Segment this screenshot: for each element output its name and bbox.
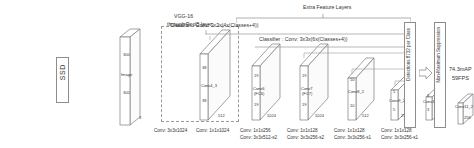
block-conv10_2-height: 3 xyxy=(427,94,429,98)
conv-caption-conv11_2-b: Conv: 3x3x256-s1 xyxy=(381,135,418,141)
block-conv8_2-depth: 512 xyxy=(362,114,369,118)
block-conv10_2-width: 3 xyxy=(427,108,429,112)
result-map-label: 74.3mAP xyxy=(449,67,472,73)
conv-caption-conv11_2-a: Conv: 1x1x128 xyxy=(381,128,412,134)
extra-feature-layers-bracket xyxy=(236,12,411,24)
ssd-architecture-figure: SSD 300 Image 300 3 VGG-16 through Pool5… xyxy=(0,0,474,148)
arrow-to-nms-icon xyxy=(419,66,433,80)
conv-caption-conv10_2-a: Conv: 1x1x128 xyxy=(334,128,365,134)
input-name-label: Image xyxy=(121,73,132,77)
input-width-label: 300 xyxy=(123,91,130,95)
conv-caption-conv7: Conv: 1x1x1024 xyxy=(196,128,229,134)
conv-caption-conv9_2-a: Conv: 1x1x128 xyxy=(287,128,318,134)
extra-feature-layers-title: Extra Feature Layers xyxy=(303,4,351,10)
result-fps-label: 59FPS xyxy=(452,76,469,82)
block-conv11_2-name: Conv11_2 xyxy=(455,105,473,109)
vgg16-title-line1: VGG-16 xyxy=(174,13,193,19)
block-conv9_2-width: 5 xyxy=(393,108,395,112)
conv-caption-conv10_2-b: Conv: 3x3x256-s1 xyxy=(334,135,371,141)
nms-label: Non-Maximum Suppression xyxy=(437,27,442,83)
block-conv6-depth: 1024 xyxy=(267,114,276,118)
block-conv11_2-depth: 256 xyxy=(464,116,471,120)
block-conv7-width: 19 xyxy=(302,103,306,107)
conv-caption-conv6: Conv: 3x3x1024 xyxy=(154,128,187,134)
ssd-label: SSD xyxy=(59,64,66,80)
conv-caption-conv8_2-a: Conv: 1x1x256 xyxy=(240,128,271,134)
input-depth-label: 3 xyxy=(139,116,141,120)
detections-label: Detections:8732 per Class xyxy=(407,28,412,81)
block-conv4_3-depth: 512 xyxy=(218,114,225,118)
conv-caption-conv8_2-b: Conv: 3x3x512-s2 xyxy=(240,135,277,141)
feature-layer-connectors xyxy=(200,28,415,103)
input-height-label: 300 xyxy=(123,53,130,57)
block-conv6-width: 19 xyxy=(254,103,258,107)
conv-caption-conv9_2-b: Conv: 3x3x256-s2 xyxy=(287,135,324,141)
block-conv8_2-width: 10 xyxy=(350,104,354,108)
block-conv7-depth: 1024 xyxy=(315,114,324,118)
